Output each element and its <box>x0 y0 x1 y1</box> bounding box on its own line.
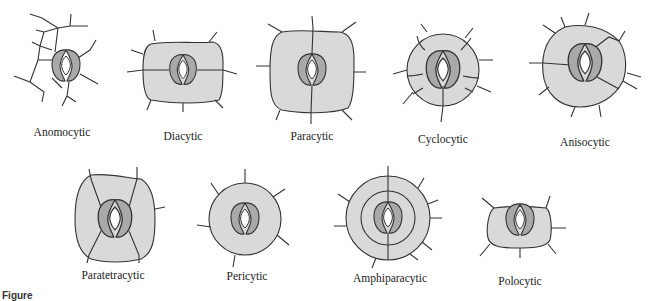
polocytic-stoma <box>480 196 566 258</box>
pericytic-stoma <box>197 169 289 267</box>
anomocytic-stoma <box>14 14 98 106</box>
anisocytic-stoma <box>529 13 641 117</box>
diacytic-stoma <box>127 30 237 112</box>
cyclocytic-stoma <box>393 24 493 122</box>
amphiparacytic-stoma <box>334 166 442 268</box>
label-paracytic: Paracytic <box>291 130 334 142</box>
paracytic-stoma <box>256 16 366 124</box>
label-cyclocytic: Cyclocytic <box>418 133 468 145</box>
label-anisocytic: Anisocytic <box>560 136 610 148</box>
label-amphiparacytic: Amphiparacytic <box>353 272 427 284</box>
label-polocytic: Polocytic <box>498 275 541 287</box>
figure-caption: Figure <box>2 290 33 301</box>
label-paratetracytic: Paratetracytic <box>81 269 144 281</box>
paratetracytic-stoma <box>75 167 165 263</box>
label-anomocytic: Anomocytic <box>34 126 91 138</box>
label-diacytic: Diacytic <box>164 130 203 142</box>
label-pericytic: Pericytic <box>227 270 268 282</box>
